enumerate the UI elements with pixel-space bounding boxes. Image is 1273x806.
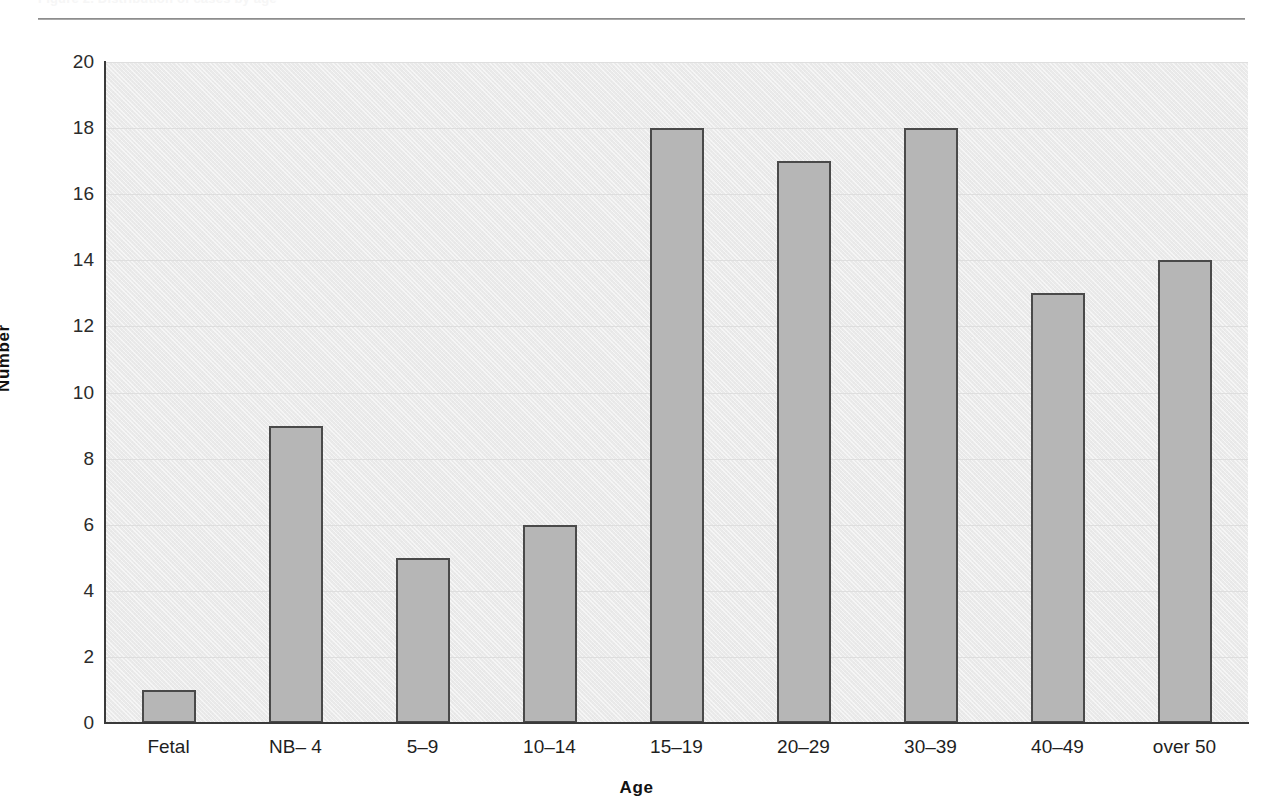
bar[interactable]: [523, 525, 577, 723]
x-axis-tick-label: 5–9: [407, 736, 439, 758]
y-axis-tick-labels: 02468101214161820: [30, 0, 94, 806]
x-axis-tick-label: 20–29: [777, 736, 830, 758]
y-axis-tick-label: 16: [34, 183, 94, 205]
bar-chart: 02468101214161820 Number FetalNB– 45–910…: [0, 0, 1273, 806]
y-axis-tick-label: 18: [34, 117, 94, 139]
y-axis-tick-label: 12: [34, 315, 94, 337]
y-axis-tick-label: 6: [34, 514, 94, 536]
y-axis-tick-label: 10: [34, 382, 94, 404]
x-axis-tick-label: 30–39: [904, 736, 957, 758]
y-axis-tick-label: 2: [34, 646, 94, 668]
x-axis-line: [104, 722, 1249, 724]
gridline: [105, 62, 1248, 63]
bar[interactable]: [269, 426, 323, 723]
plot-area: [105, 62, 1248, 723]
y-axis-tick-label: 4: [34, 580, 94, 602]
x-axis-tick-label: Fetal: [147, 736, 189, 758]
y-axis-tick-label: 0: [34, 712, 94, 734]
y-axis-tick-label: 8: [34, 448, 94, 470]
x-axis-tick-label: 40–49: [1031, 736, 1084, 758]
x-axis-tick-label: NB– 4: [269, 736, 322, 758]
bar[interactable]: [396, 558, 450, 723]
y-axis-title: Number: [0, 324, 14, 392]
bar[interactable]: [650, 128, 704, 723]
y-axis-line: [104, 61, 106, 724]
y-axis-tick-label: 20: [34, 51, 94, 73]
x-axis-tick-label: over 50: [1153, 736, 1216, 758]
bar[interactable]: [904, 128, 958, 723]
x-axis-tick-label: 10–14: [523, 736, 576, 758]
bar[interactable]: [777, 161, 831, 723]
x-axis-title: Age: [0, 778, 1273, 798]
x-axis-tick-label: 15–19: [650, 736, 703, 758]
bar[interactable]: [1158, 260, 1212, 723]
bar[interactable]: [1031, 293, 1085, 723]
y-axis-tick-label: 14: [34, 249, 94, 271]
bar[interactable]: [142, 690, 196, 723]
